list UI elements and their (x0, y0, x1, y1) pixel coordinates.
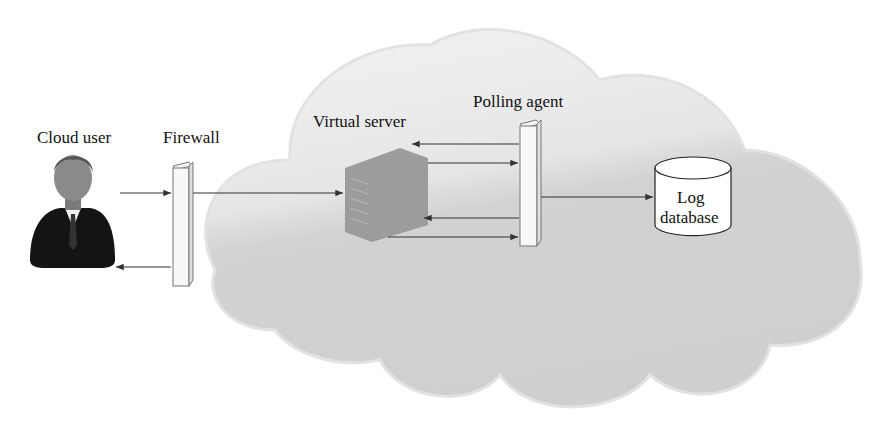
cloud-architecture-diagram (0, 0, 892, 431)
virtual-server-label: Virtual server (313, 112, 406, 132)
firewall-label: Firewall (163, 128, 220, 148)
firewall-icon (173, 162, 193, 286)
polling-agent-icon (520, 120, 541, 246)
user-avatar-icon (30, 155, 115, 268)
log-database-label-line1: Log (677, 188, 704, 208)
polling-agent-label: Polling agent (473, 92, 563, 112)
log-database-label-line2: database (660, 208, 719, 228)
cloud-user-label: Cloud user (37, 128, 111, 148)
